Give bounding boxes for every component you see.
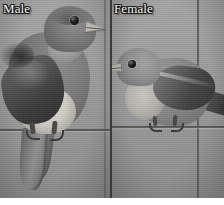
- bird-eye: [70, 16, 79, 25]
- bird-claw-right: [171, 123, 184, 132]
- panel-label-female: Female: [114, 2, 153, 16]
- panel-label-male: Male: [3, 2, 30, 16]
- bird-eye: [128, 60, 136, 68]
- panel-divider: [110, 0, 112, 198]
- bird-shoulder-shadow: [0, 42, 34, 68]
- wire-secondary-icon: [197, 126, 224, 128]
- bird-head: [117, 48, 161, 86]
- panel-female: Female: [111, 0, 224, 198]
- bird-claw-right: [50, 130, 64, 141]
- bottom-margin: [0, 198, 224, 205]
- bird-claw-left: [149, 123, 162, 132]
- panel-male: Male: [0, 0, 111, 198]
- figure-two-panel-bird-photo: Male Female: [0, 0, 224, 198]
